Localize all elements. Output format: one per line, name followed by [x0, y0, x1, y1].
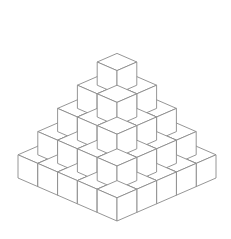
cube — [97, 181, 137, 221]
cube-pyramid-drawing — [0, 0, 231, 239]
cube-pyramid-diagram — [0, 0, 231, 239]
